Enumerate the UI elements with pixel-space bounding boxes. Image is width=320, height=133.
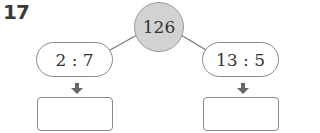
total-circle: 126 [134,2,184,52]
right-ratio-pill: 13 : 5 [202,42,279,77]
left-ratio-pill: 2 : 7 [36,42,113,77]
down-arrow-icon [71,83,83,94]
right-answer-box[interactable] [203,97,279,131]
left-answer-box[interactable] [37,97,113,131]
left-ratio: 2 : 7 [55,50,93,70]
total-value: 126 [143,17,175,37]
down-arrow-icon [237,83,249,94]
right-ratio: 13 : 5 [216,50,265,70]
